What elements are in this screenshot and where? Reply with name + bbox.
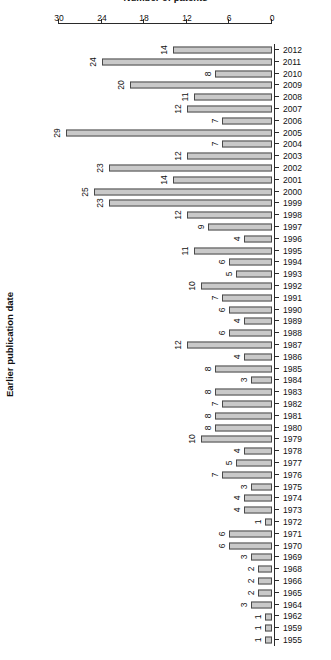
category-label: 1970 (283, 541, 302, 550)
plot-area: 1113222366144375410887838412646710561149… (59, 44, 272, 646)
category-label: 1991 (283, 294, 302, 303)
bar (251, 483, 272, 490)
bar (187, 212, 272, 219)
category-label: 1994 (283, 258, 302, 267)
bar-value-label: 12 (174, 104, 183, 113)
bar-value-label: 3 (240, 484, 249, 489)
bar-chart-figure: 1113222366144375410887838412646710561149… (0, 0, 331, 660)
bar-row: 1 (59, 611, 272, 623)
bar-row: 3 (59, 375, 272, 387)
bar-row: 7 (59, 469, 272, 481)
value-tick-label: 12 (182, 14, 191, 23)
category-label: 1976 (283, 471, 302, 480)
category-axis-title-text: Earlier publication date (4, 292, 15, 397)
bar (229, 306, 272, 313)
category-label: 2001 (283, 176, 302, 185)
bar-value-label: 3 (240, 602, 249, 607)
bar-value-label: 14 (160, 175, 169, 184)
category-label: 2012 (283, 46, 302, 55)
category-label: 1990 (283, 305, 302, 314)
bar-row: 6 (59, 256, 272, 268)
bar-value-label: 8 (205, 71, 214, 76)
bar (109, 200, 272, 207)
category-label: 2005 (283, 128, 302, 137)
category-label: 2006 (283, 116, 302, 125)
bar-value-label: 4 (233, 496, 242, 501)
bar-value-label: 20 (117, 81, 126, 90)
bar (215, 389, 272, 396)
category-label: 1999 (283, 199, 302, 208)
bar-row: 12 (59, 103, 272, 115)
bar-row: 11 (59, 91, 272, 103)
category-axis-title: Earlier publication date (2, 44, 16, 646)
value-axis-labels: 0612182430 (59, 6, 272, 22)
category-label: 1955 (283, 636, 302, 645)
bar-value-label: 8 (205, 366, 214, 371)
bar-value-label: 1 (254, 520, 263, 525)
bar-value-label: 4 (233, 508, 242, 513)
category-label: 1975 (283, 482, 302, 491)
bar-value-label: 1 (254, 638, 263, 643)
category-label: 1996 (283, 235, 302, 244)
bar-value-label: 10 (188, 435, 197, 444)
bar-value-label: 6 (219, 543, 228, 548)
value-tick-label: 6 (227, 14, 232, 23)
bar-row: 12 (59, 150, 272, 162)
category-axis-line (274, 44, 275, 646)
bar (109, 164, 272, 171)
bar-value-label: 25 (82, 187, 91, 196)
bar-row: 4 (59, 316, 272, 328)
bar-value-label: 29 (53, 128, 62, 137)
bar-row: 3 (59, 552, 272, 564)
category-label: 1988 (283, 329, 302, 338)
bar-value-label: 24 (89, 57, 98, 66)
bar (95, 188, 273, 195)
bar-row: 8 (59, 422, 272, 434)
bar-row: 7 (59, 115, 272, 127)
bar (201, 283, 272, 290)
bar (66, 129, 272, 136)
category-label: 1993 (283, 270, 302, 279)
bar-value-label: 3 (240, 378, 249, 383)
bar-value-label: 5 (226, 272, 235, 277)
bar (173, 46, 272, 53)
rotated-figure-container: 1113222366144375410887838412646710561149… (0, 0, 331, 660)
bar (194, 94, 272, 101)
bar (173, 176, 272, 183)
category-label: 1962 (283, 612, 302, 621)
bar (244, 495, 272, 502)
category-label: 1973 (283, 506, 302, 515)
category-label: 1966 (283, 577, 302, 586)
bar (102, 58, 272, 65)
bar-row: 14 (59, 44, 272, 56)
bar (194, 247, 272, 254)
category-label: 1965 (283, 589, 302, 598)
bar-row: 10 (59, 434, 272, 446)
bar-value-label: 12 (174, 210, 183, 219)
bar-row: 2 (59, 587, 272, 599)
bar-value-label: 2 (247, 591, 256, 596)
bar-value-label: 9 (197, 225, 206, 230)
bar-row: 4 (59, 351, 272, 363)
bar-row: 8 (59, 386, 272, 398)
bar (244, 318, 272, 325)
category-label: 2004 (283, 140, 302, 149)
value-tick-label: 30 (54, 14, 63, 23)
bar-row: 20 (59, 79, 272, 91)
bar-row: 10 (59, 280, 272, 292)
bar (187, 153, 272, 160)
bar-value-label: 23 (96, 199, 105, 208)
bar-row: 6 (59, 327, 272, 339)
bar-row: 12 (59, 209, 272, 221)
category-label: 2011 (283, 57, 301, 66)
bar (215, 365, 272, 372)
bar-row: 4 (59, 493, 272, 505)
bar-row: 7 (59, 138, 272, 150)
bar-row: 29 (59, 127, 272, 139)
bar-row: 6 (59, 528, 272, 540)
category-label: 1979 (283, 435, 302, 444)
category-label: 2010 (283, 69, 302, 78)
category-label: 1964 (283, 600, 302, 609)
bar-row: 4 (59, 233, 272, 245)
category-label: 1997 (283, 223, 302, 232)
